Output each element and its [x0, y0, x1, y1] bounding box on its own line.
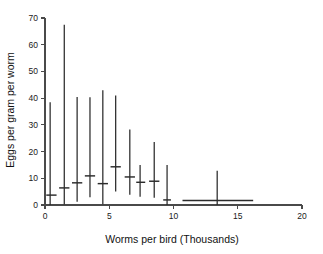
- y-tick-label: 30: [29, 120, 39, 130]
- x-tick-label: 0: [43, 211, 48, 221]
- chart-canvas: 010203040506070 05101520 Worms per bird …: [0, 0, 323, 254]
- error-bar-point: [125, 129, 135, 194]
- x-tick-label: 5: [107, 211, 112, 221]
- error-bar-point: [72, 97, 82, 202]
- error-bar-point: [59, 25, 69, 205]
- y-tick-label: 40: [29, 93, 39, 103]
- error-bar-point: [149, 142, 159, 198]
- y-tick-label: 70: [29, 13, 39, 23]
- error-bar-point: [46, 102, 56, 205]
- x-tick-label: 15: [233, 211, 243, 221]
- error-bar-point: [85, 97, 95, 197]
- x-axis-title: Worms per bird (Thousands): [105, 233, 238, 245]
- x-tick-label: 20: [297, 211, 307, 221]
- error-bar-point: [111, 95, 121, 191]
- y-tick-label: 60: [29, 40, 39, 50]
- y-tick-label: 20: [29, 147, 39, 157]
- error-bar-point: [98, 90, 108, 204]
- y-axis-ticks: 010203040506070: [29, 13, 45, 210]
- error-bar-series: [46, 25, 253, 205]
- y-axis-title: Eggs per gram per worm: [4, 52, 16, 168]
- y-tick-label: 10: [29, 173, 39, 183]
- error-bar-point: [182, 171, 253, 205]
- error-bar-point: [163, 165, 171, 205]
- x-axis-ticks: 05101520: [43, 205, 307, 221]
- error-bar-point: [136, 165, 145, 197]
- chart-figure: 010203040506070 05101520 Worms per bird …: [0, 0, 323, 254]
- y-tick-label: 50: [29, 66, 39, 76]
- axis-lines: [45, 18, 302, 205]
- x-tick-label: 10: [169, 211, 179, 221]
- y-tick-label: 0: [33, 200, 38, 210]
